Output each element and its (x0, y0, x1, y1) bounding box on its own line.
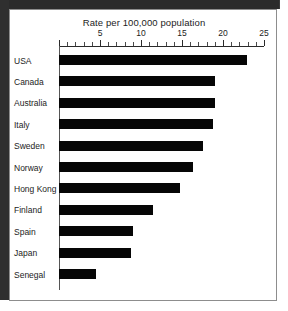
x-axis-minor-tick (198, 42, 199, 46)
x-axis-minor-tick (108, 42, 109, 46)
category-label: Japan (14, 248, 57, 258)
bar-chart-plot-area: 510152025USACanadaAustraliaItalySwedenNo… (10, 10, 277, 301)
x-axis-minor-tick (248, 42, 249, 46)
bar (59, 226, 133, 236)
category-label: Senegal (14, 270, 57, 280)
bar (59, 248, 131, 258)
x-axis-minor-tick (116, 42, 117, 46)
x-axis-minor-tick (84, 42, 85, 46)
x-axis-minor-tick (157, 42, 158, 46)
bar (59, 141, 203, 151)
x-axis-tick-label: 5 (98, 28, 103, 38)
x-axis-major-tick (141, 40, 142, 46)
x-axis-minor-tick (125, 42, 126, 46)
category-label: USA (14, 56, 57, 66)
bar (59, 162, 193, 172)
category-label: Italy (14, 120, 57, 130)
bar (59, 269, 96, 279)
category-label: Canada (14, 77, 57, 87)
x-axis-minor-tick (190, 42, 191, 46)
bar (59, 183, 180, 193)
category-label: Norway (14, 163, 57, 173)
x-axis-minor-tick (67, 42, 68, 46)
x-axis-tick-label: 25 (259, 28, 268, 38)
category-label: Sweden (14, 141, 57, 151)
x-axis-minor-tick (231, 42, 232, 46)
window-top-edge (0, 0, 288, 9)
x-axis-minor-tick (149, 42, 150, 46)
x-axis-minor-tick (239, 42, 240, 46)
category-label: Finland (14, 205, 57, 215)
bar (59, 205, 153, 215)
x-axis-tick-label: 20 (218, 28, 227, 38)
x-axis-tick-label: 15 (177, 28, 186, 38)
x-axis-minor-tick (166, 42, 167, 46)
x-axis-minor-tick (133, 42, 134, 46)
x-axis-minor-tick (215, 42, 216, 46)
screenshot-root: Rate per 100,000 population 510152025USA… (0, 0, 288, 311)
x-axis-minor-tick (75, 42, 76, 46)
x-axis-minor-tick (92, 42, 93, 46)
category-label: Spain (14, 227, 57, 237)
category-label: Australia (14, 98, 57, 108)
x-axis-major-tick (182, 40, 183, 46)
x-axis-major-tick (264, 40, 265, 46)
x-axis-minor-tick (256, 42, 257, 46)
x-axis-major-tick (59, 40, 60, 46)
plot-bottom-padding (10, 290, 277, 300)
bar (59, 76, 215, 86)
x-axis-major-tick (100, 40, 101, 46)
x-axis-minor-tick (174, 42, 175, 46)
x-axis-tick-label: 10 (136, 28, 145, 38)
bar (59, 119, 213, 129)
category-label: Hong Kong (14, 184, 57, 194)
x-axis-line (59, 46, 264, 47)
bar (59, 98, 215, 108)
window-right-edge (280, 0, 288, 311)
x-axis-major-tick (223, 40, 224, 46)
x-axis-minor-tick (207, 42, 208, 46)
chart-card: Rate per 100,000 population 510152025USA… (9, 9, 277, 301)
bar (59, 55, 247, 65)
window-left-edge (0, 0, 9, 300)
